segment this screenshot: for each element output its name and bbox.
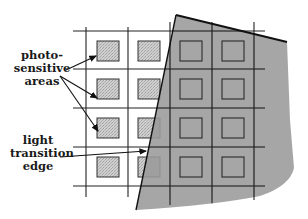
sensor-square xyxy=(138,41,160,61)
sensor-square xyxy=(97,79,119,99)
sensor-square xyxy=(97,157,119,177)
annotation-arrows xyxy=(60,56,146,157)
sensor-square xyxy=(97,118,119,138)
sensor-square xyxy=(97,41,119,61)
sensor-square xyxy=(138,79,160,99)
photosensitive-areas-label: photo- sensitive areas xyxy=(12,49,72,88)
light-transition-edge-label: light transition edge xyxy=(10,134,66,173)
photosensor-grid-diagram xyxy=(0,0,308,219)
